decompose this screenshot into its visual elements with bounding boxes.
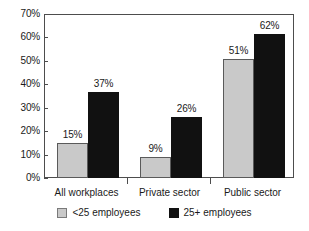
bar-value-all-workplaces-small: 15%	[57, 130, 88, 140]
legend-label-small: <25 employees	[72, 207, 140, 218]
y-axis-label-30: 30%	[21, 103, 40, 113]
y-axis-label-0: 0%	[26, 173, 40, 183]
bar-value-private-sector-small: 9%	[140, 144, 171, 154]
legend-swatch-icon-small	[57, 208, 67, 218]
group-separator-2	[210, 178, 211, 184]
bar-all-workplaces-small[interactable]	[57, 143, 88, 178]
y-axis-label-50: 50%	[21, 56, 40, 66]
y-axis-label-40: 40%	[21, 79, 40, 89]
y-axis-label-70: 70%	[21, 9, 40, 19]
legend-item-small[interactable]: <25 employees	[57, 207, 140, 218]
legend-item-large[interactable]: 25+ employees	[169, 207, 252, 218]
bar-public-sector-large[interactable]	[254, 34, 285, 178]
bar-value-public-sector-large: 62%	[254, 21, 285, 31]
bar-private-sector-large[interactable]	[171, 117, 202, 178]
legend: <25 employees 25+ employees	[0, 207, 309, 218]
bar-value-private-sector-large: 26%	[171, 104, 202, 114]
bar-chart: 70% 60% 50% 40% 30% 20% 10% 0% 15% 37% 9…	[0, 0, 309, 231]
legend-swatch-icon-large	[169, 208, 179, 218]
y-axis: 70% 60% 50% 40% 30% 20% 10% 0%	[0, 14, 40, 178]
plot-area: 15% 37% 9% 26% 51% 62%	[45, 15, 293, 178]
bar-value-all-workplaces-large: 37%	[88, 79, 119, 89]
x-axis-label-private-sector: Private sector	[128, 187, 211, 198]
y-axis-label-60: 60%	[21, 32, 40, 42]
bar-public-sector-small[interactable]	[223, 59, 254, 178]
bar-private-sector-small[interactable]	[140, 157, 171, 178]
x-axis-label-all-workplaces: All workplaces	[45, 187, 128, 198]
y-axis-label-20: 20%	[21, 126, 40, 136]
x-axis-label-public-sector: Public sector	[211, 187, 294, 198]
y-axis-label-10: 10%	[21, 150, 40, 160]
bar-all-workplaces-large[interactable]	[88, 92, 119, 178]
group-separator-1	[127, 178, 128, 184]
bar-value-public-sector-small: 51%	[223, 46, 254, 56]
y-tick-mark-0	[44, 178, 48, 179]
legend-label-large: 25+ employees	[184, 207, 252, 218]
